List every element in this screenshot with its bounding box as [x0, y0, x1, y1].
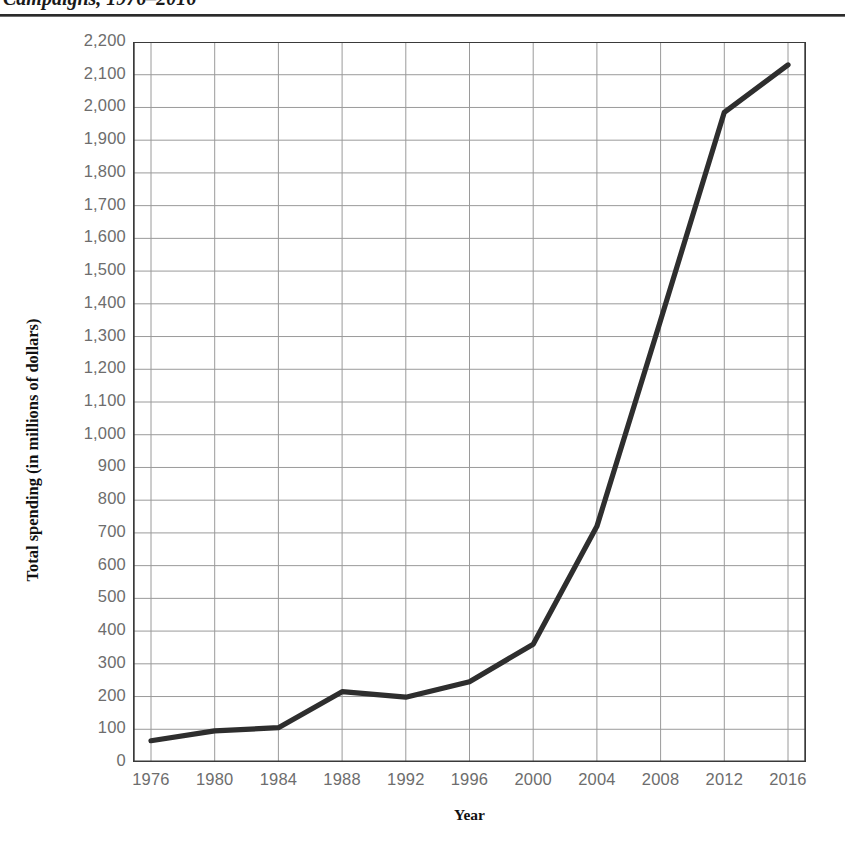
y-axis-tick-label: 2,000 — [6, 96, 126, 115]
y-axis-tick-label: 2,200 — [6, 31, 126, 50]
y-axis-tick-label: 400 — [6, 620, 126, 639]
header-rule-shadow — [0, 16, 845, 17]
y-axis-tick-label: 900 — [6, 456, 126, 475]
y-axis-tick-label: 2,100 — [6, 64, 126, 83]
y-axis-tick-label: 1,600 — [6, 227, 126, 246]
caption-clip: Campaigns, 1976–2016 — [0, 0, 845, 13]
y-axis-tick-label: 500 — [6, 587, 126, 606]
y-axis-tick-label: 0 — [6, 751, 126, 770]
y-axis-tick-label: 700 — [6, 522, 126, 541]
y-axis-tick-label: 1,300 — [6, 326, 126, 345]
y-axis-tick-label: 1,200 — [6, 358, 126, 377]
plot-area — [133, 42, 806, 762]
y-axis-tick-label: 800 — [6, 489, 126, 508]
line-chart-svg — [133, 42, 806, 762]
y-axis-tick-label: 100 — [6, 718, 126, 737]
chart-page: Campaigns, 1976–2016 Total spending (in … — [0, 0, 845, 861]
y-axis-tick-label: 1,500 — [6, 260, 126, 279]
page-caption: Campaigns, 1976–2016 — [3, 0, 196, 10]
y-axis-tick-label: 1,100 — [6, 391, 126, 410]
x-axis-title: Year — [133, 806, 806, 824]
x-axis-tick-labels: 1976198019841988199219962000200420082012… — [133, 770, 806, 796]
y-axis-tick-label: 1,900 — [6, 129, 126, 148]
y-axis-tick-label: 1,700 — [6, 195, 126, 214]
y-axis-tick-label: 1,800 — [6, 162, 126, 181]
y-axis-tick-label: 600 — [6, 555, 126, 574]
x-axis-tick-label: 2016 — [748, 770, 828, 789]
y-axis-tick-label: 200 — [6, 686, 126, 705]
y-axis-tick-labels: 2,2002,1002,0001,9001,8001,7001,6001,500… — [0, 42, 126, 762]
y-axis-tick-label: 1,400 — [6, 293, 126, 312]
y-axis-tick-label: 300 — [6, 653, 126, 672]
y-axis-tick-label: 1,000 — [6, 424, 126, 443]
